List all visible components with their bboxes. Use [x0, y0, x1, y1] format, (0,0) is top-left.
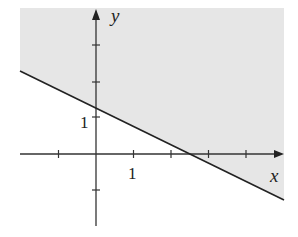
- y-axis-label: y: [109, 5, 120, 26]
- x-axis-label: x: [269, 165, 279, 186]
- inequality-graph: y x 1 1: [0, 0, 298, 237]
- y-tick-label-1: 1: [80, 113, 89, 132]
- x-tick-label-1: 1: [128, 164, 137, 183]
- shaded-region: [20, 8, 284, 200]
